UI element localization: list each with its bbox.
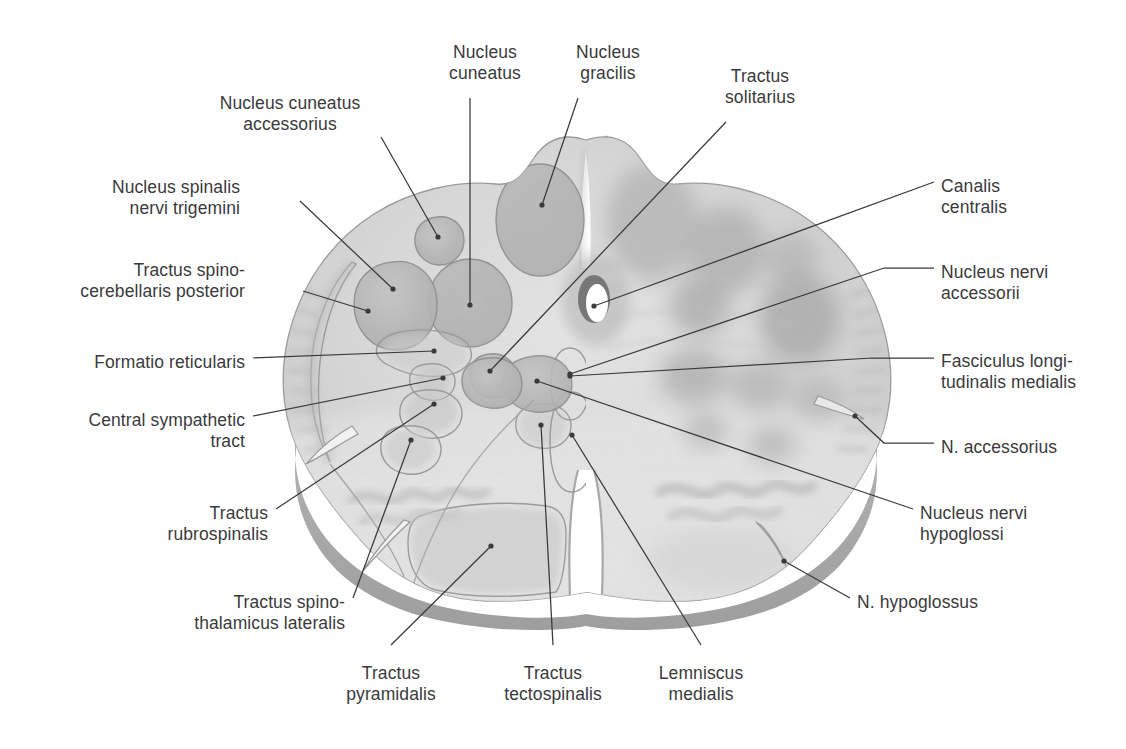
label-tractus-spinocerebellaris-post-line-1: Tractus spino- bbox=[80, 260, 245, 281]
label-nucleus-nervi-hypoglossi-line-2: hypoglossi bbox=[920, 524, 1027, 545]
leader-fasciculus-longitudinalis-dot bbox=[567, 373, 572, 378]
label-lemniscus-medialis: Lemniscusmedialis bbox=[659, 663, 744, 705]
label-tractus-rubrospinalis-line-1: Tractus bbox=[167, 503, 268, 524]
label-fasciculus-longitudinalis-med: Fasciculus longi-tudinalis medialis bbox=[941, 351, 1076, 393]
label-tractus-solitarius: Tractussolitarius bbox=[725, 66, 795, 108]
label-fasciculus-longitudinalis-med-line-2: tudinalis medialis bbox=[941, 372, 1076, 393]
label-canalis-centralis: Canaliscentralis bbox=[941, 176, 1007, 218]
leader-n-hypoglossus-dot bbox=[781, 558, 786, 563]
diffuse-retic-right-a bbox=[660, 348, 728, 404]
label-nucleus-nervi-accessorii: Nucleus nerviaccessorii bbox=[941, 262, 1048, 304]
central-canal bbox=[586, 284, 608, 322]
label-nucleus-spinalis-nervi-trigemini: Nucleus spinalisnervi trigemini bbox=[112, 177, 240, 219]
leader-tractus-tectospinalis-dot bbox=[538, 422, 543, 427]
label-tractus-spinothalamicus-lat-line-2: thalamicus lateralis bbox=[194, 613, 345, 634]
label-nucleus-spinalis-nervi-trigemini-line-1: Nucleus spinalis bbox=[112, 177, 240, 198]
label-lemniscus-medialis-line-1: Lemniscus bbox=[659, 663, 744, 684]
label-n-accessorius-line-1: N. accessorius bbox=[941, 437, 1057, 458]
label-nucleus-gracilis-line-2: gracilis bbox=[576, 63, 640, 84]
label-tractus-pyramidalis-line-1: Tractus bbox=[346, 663, 436, 684]
label-central-sympathetic-tract-line-2: tract bbox=[88, 431, 245, 452]
leader-tractus-spinothalamicus-dot bbox=[408, 437, 413, 442]
label-nucleus-nervi-hypoglossi-line-1: Nucleus nervi bbox=[920, 503, 1027, 524]
region-spinothalamicus-shade bbox=[386, 430, 434, 468]
label-fasciculus-longitudinalis-med-line-1: Fasciculus longi- bbox=[941, 351, 1076, 372]
label-tractus-spinothalamicus-lat-line-1: Tractus spino- bbox=[194, 592, 345, 613]
label-tractus-solitarius-line-2: solitarius bbox=[725, 87, 795, 108]
leader-nucleus-nervi-hypoglossi-dot bbox=[534, 378, 539, 383]
label-nucleus-cuneatus-accessorius-line-2: accessorius bbox=[220, 114, 361, 135]
label-nucleus-gracilis-line-1: Nucleus bbox=[576, 42, 640, 63]
label-tractus-spinothalamicus-lat: Tractus spino-thalamicus lateralis bbox=[194, 592, 345, 634]
label-tractus-pyramidalis-line-2: pyramidalis bbox=[346, 684, 436, 705]
label-central-sympathetic-tract: Central sympathetictract bbox=[88, 410, 245, 452]
label-formatio-reticularis: Formatio reticularis bbox=[94, 352, 245, 373]
label-nucleus-cuneatus: Nucleuscuneatus bbox=[449, 42, 521, 84]
label-tractus-tectospinalis: Tractustectospinalis bbox=[504, 663, 602, 705]
leader-n-accessorius-dot bbox=[852, 413, 857, 418]
diffuse-retic-right-d bbox=[684, 412, 728, 448]
label-lemniscus-medialis-line-2: medialis bbox=[659, 684, 744, 705]
region-nucleus-cuneatus-accessorius bbox=[415, 217, 464, 265]
label-tractus-spinocerebellaris-post: Tractus spino-cerebellaris posterior bbox=[80, 260, 245, 302]
diffuse-retic-right-e bbox=[748, 426, 796, 462]
label-tractus-spinocerebellaris-post-line-2: cerebellaris posterior bbox=[80, 281, 245, 302]
leader-nucleus-gracilis-dot bbox=[539, 202, 544, 207]
figure-canvas: NucleuscuneatusNucleusgracilisTractussol… bbox=[0, 0, 1126, 749]
label-n-hypoglossus: N. hypoglossus bbox=[857, 592, 978, 613]
label-nucleus-gracilis: Nucleusgracilis bbox=[576, 42, 640, 84]
label-canalis-centralis-line-1: Canalis bbox=[941, 176, 1007, 197]
label-nucleus-cuneatus-line-2: cuneatus bbox=[449, 63, 521, 84]
leader-canalis-centralis-dot bbox=[591, 303, 596, 308]
leader-tractus-pyramidalis-dot bbox=[488, 543, 493, 548]
diffuse-retic-right-b bbox=[730, 362, 790, 410]
label-nucleus-nervi-accessorii-line-1: Nucleus nervi bbox=[941, 262, 1048, 283]
label-central-sympathetic-tract-line-1: Central sympathetic bbox=[88, 410, 245, 431]
label-tractus-tectospinalis-line-2: tectospinalis bbox=[504, 684, 602, 705]
leader-central-sympathetic-dot bbox=[440, 375, 445, 380]
leader-lemniscus-medialis-dot bbox=[569, 432, 574, 437]
label-formatio-reticularis-line-1: Formatio reticularis bbox=[94, 352, 245, 373]
label-nucleus-nervi-accessorii-line-2: accessorii bbox=[941, 283, 1048, 304]
leader-nucleus-spinalis-dot bbox=[390, 286, 395, 291]
leader-tractus-spinocerebellaris-dot bbox=[365, 308, 370, 313]
label-tractus-tectospinalis-line-1: Tractus bbox=[504, 663, 602, 684]
label-nucleus-cuneatus-line-1: Nucleus bbox=[449, 42, 521, 63]
label-nucleus-cuneatus-accessorius-line-1: Nucleus cuneatus bbox=[220, 93, 361, 114]
leader-nucleus-cuneatus-dot bbox=[467, 302, 472, 307]
label-nucleus-nervi-hypoglossi: Nucleus nervihypoglossi bbox=[920, 503, 1027, 545]
leader-tractus-rubrospinalis-dot bbox=[431, 401, 436, 406]
label-tractus-pyramidalis: Tractuspyramidalis bbox=[346, 663, 436, 705]
leader-tractus-solitarius-dot bbox=[487, 368, 492, 373]
diffuse-solitarius-right bbox=[670, 276, 730, 336]
label-tractus-solitarius-line-1: Tractus bbox=[725, 66, 795, 87]
region-nucleus-gracilis-core bbox=[508, 178, 572, 262]
label-n-accessorius: N. accessorius bbox=[941, 437, 1057, 458]
label-tractus-rubrospinalis: Tractusrubrospinalis bbox=[167, 503, 268, 545]
leader-formatio-reticularis-dot bbox=[431, 348, 436, 353]
label-n-hypoglossus-line-1: N. hypoglossus bbox=[857, 592, 978, 613]
region-tractus-rubrospinalis-shade bbox=[405, 393, 457, 433]
label-nucleus-spinalis-nervi-trigemini-line-2: nervi trigemini bbox=[112, 198, 240, 219]
label-tractus-rubrospinalis-line-2: rubrospinalis bbox=[167, 524, 268, 545]
region-nucleus-nervi-accessorii bbox=[462, 358, 522, 408]
label-nucleus-cuneatus-accessorius: Nucleus cuneatusaccessorius bbox=[220, 93, 361, 135]
leader-nucleus-cuneatus-accessorius-dot bbox=[435, 234, 440, 239]
label-canalis-centralis-line-2: centralis bbox=[941, 197, 1007, 218]
